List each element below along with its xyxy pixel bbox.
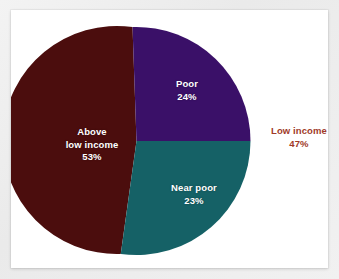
- pie-slice-near-poor[interactable]: [121, 141, 251, 255]
- chart-card: Poor 24% Near poor 23% Above low income …: [11, 10, 328, 268]
- pie-slice-above-low-income[interactable]: [11, 26, 136, 254]
- annotation-low-income-label: Low income: [271, 125, 327, 136]
- annotation-low-income: Low income 47%: [258, 124, 339, 150]
- page-background: Poor 24% Near poor 23% Above low income …: [0, 0, 339, 279]
- annotation-low-income-value: 47%: [258, 137, 339, 150]
- pie-chart: Poor 24% Near poor 23% Above low income …: [11, 10, 328, 268]
- pie-slice-poor[interactable]: [133, 27, 251, 141]
